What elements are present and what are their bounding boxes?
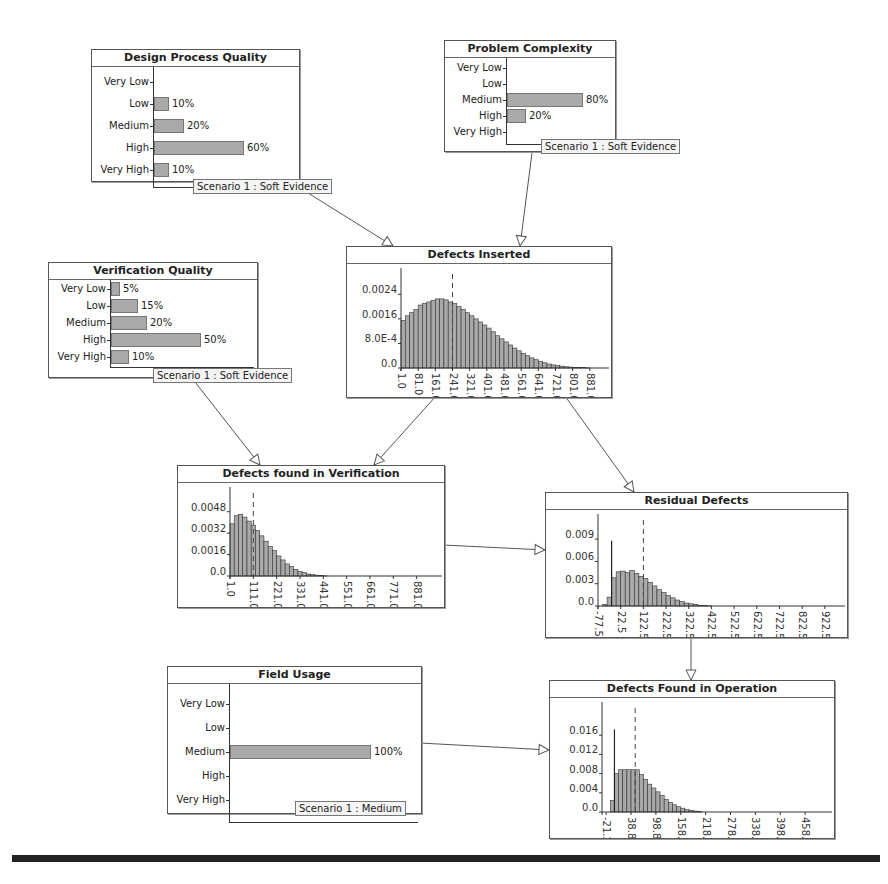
axis-tick — [503, 84, 506, 85]
histogram-bar — [668, 802, 672, 812]
node-title: Defects Found in Operation — [550, 681, 834, 698]
histogram-bar — [440, 299, 444, 368]
histogram-bar — [648, 582, 653, 606]
probability-label: 10% — [132, 350, 154, 364]
category-bar-chart: Very LowLow10%Medium20%High60%Very High1… — [92, 67, 299, 181]
node-defects-found-in-operation[interactable]: Defects Found in Operation0.0160.0120.00… — [549, 680, 835, 839]
node-design-process-quality[interactable]: Design Process QualityVery LowLow10%Medi… — [91, 49, 300, 182]
y-tick-label: 0.003 — [565, 574, 594, 585]
histogram-bar — [255, 530, 259, 576]
edge-inserted-to-found-verif — [374, 396, 436, 465]
histogram-bar — [268, 547, 272, 576]
y-tick-label: 0.008 — [569, 764, 598, 775]
histogram-bar — [538, 361, 542, 368]
x-tick-label: -21.2 — [601, 817, 612, 838]
category-label: High — [479, 110, 502, 122]
histogram-chart: 0.0090.0060.0030.0-77.522.5122.5222.5322… — [546, 510, 847, 637]
histogram-bar — [623, 770, 627, 812]
histogram-bar — [639, 775, 643, 812]
edge-found-verif-to-residual — [443, 545, 545, 550]
node-verification-quality[interactable]: Verification QualityVery Low5%Low15%Medi… — [48, 262, 258, 378]
histogram-bar — [619, 770, 623, 812]
x-tick-label: 522.5 — [729, 611, 740, 637]
histogram-bar — [671, 598, 676, 606]
y-tick-label: 0.0024 — [362, 284, 397, 295]
axis-tick — [150, 104, 153, 105]
axis-tick — [503, 68, 506, 69]
axis-tick — [150, 82, 153, 83]
probability-bar — [507, 109, 526, 123]
probability-label: 20% — [187, 119, 209, 133]
x-tick-label: 551.0 — [342, 581, 353, 607]
probability-label: 20% — [150, 316, 172, 330]
x-tick-label: 822.5 — [797, 611, 808, 637]
edge-inserted-to-residual — [565, 396, 634, 492]
probability-bar — [111, 316, 147, 330]
evidence-label-verification-quality[interactable]: Scenario 1 : Soft Evidence — [153, 368, 292, 383]
histogram-bar — [234, 516, 238, 576]
node-problem-complexity[interactable]: Problem ComplexityVery LowLowMedium80%Hi… — [444, 40, 616, 152]
histogram-bar — [294, 569, 298, 576]
category-label: Medium — [185, 746, 225, 758]
histogram-chart: 0.0160.0120.0080.0040.0-21.238.898.8158.… — [550, 698, 834, 838]
x-tick-label: 922.5 — [820, 611, 831, 637]
edge-complexity-to-inserted — [520, 153, 532, 246]
node-title: Defects Inserted — [347, 247, 611, 264]
x-tick-label: 481.0 — [499, 373, 510, 397]
y-tick-label: 0.0016 — [362, 309, 397, 320]
histogram-bar — [675, 600, 680, 606]
histogram-bar — [652, 586, 657, 606]
histogram-bar — [272, 551, 276, 576]
axis-tick — [107, 340, 110, 341]
y-tick-label: 0.009 — [565, 529, 594, 540]
edge-design-to-inserted — [308, 193, 393, 246]
x-tick-label: 401.0 — [482, 373, 493, 397]
node-title: Field Usage — [168, 667, 421, 684]
evidence-label-field-usage[interactable]: Scenario 1 : Medium — [295, 801, 406, 816]
histogram-bar — [277, 556, 281, 576]
probability-bar — [230, 745, 371, 759]
category-label: Very Low — [457, 62, 502, 74]
node-title: Design Process Quality — [92, 50, 299, 67]
node-residual-defects[interactable]: Residual Defects0.0090.0060.0030.0-77.52… — [545, 492, 848, 638]
x-tick-label: -77.5 — [593, 611, 604, 637]
histogram-bar — [517, 351, 521, 368]
x-tick-label: 241.0 — [448, 373, 459, 397]
histogram-bar — [483, 325, 487, 368]
histogram-bar — [616, 572, 621, 606]
x-tick-label: 22.5 — [616, 611, 627, 633]
histogram-bar — [525, 356, 529, 368]
evidence-label-problem-complexity[interactable]: Scenario 1 : Soft Evidence — [541, 139, 680, 154]
axis-tick — [107, 289, 110, 290]
x-tick-label: 98.8 — [651, 817, 662, 838]
histogram-bar — [672, 805, 676, 812]
x-tick-label: 111.0 — [248, 581, 259, 607]
category-label: Very High — [177, 794, 225, 806]
x-tick-label: 38.8 — [626, 817, 637, 838]
evidence-label-design-process-quality[interactable]: Scenario 1 : Soft Evidence — [193, 179, 332, 194]
node-field-usage[interactable]: Field UsageVery LowLowMedium100%HighVery… — [167, 666, 422, 814]
y-tick-label: 0.0 — [578, 596, 594, 607]
x-tick-label: 1.0 — [225, 581, 236, 597]
probability-label: 100% — [374, 745, 403, 759]
histogram-bar — [625, 573, 630, 606]
histogram-bar — [418, 305, 422, 368]
histogram-bar — [405, 316, 409, 368]
histogram-bar — [444, 300, 448, 368]
histogram-bar — [289, 567, 293, 576]
histogram-bar — [521, 353, 525, 368]
node-defects-inserted[interactable]: Defects Inserted0.00240.00168.0E-40.01.0… — [346, 246, 612, 398]
node-defects-found-in-verification[interactable]: Defects found in Verification0.00480.003… — [177, 465, 445, 608]
histogram-bar — [612, 578, 617, 606]
x-tick-label: 661.0 — [365, 581, 376, 607]
y-tick-label: 8.0E-4 — [365, 333, 397, 344]
axis-tick — [226, 752, 229, 753]
histogram-bar — [680, 602, 685, 606]
axis-tick — [503, 132, 506, 133]
probability-label: 20% — [529, 109, 551, 123]
y-tick-label: 0.004 — [569, 783, 598, 794]
y-tick-label: 0.0048 — [191, 502, 226, 513]
histogram-chart: 0.00240.00168.0E-40.01.081.0161.0241.032… — [347, 264, 611, 397]
probability-bar — [111, 350, 129, 364]
x-tick-label: 881.0 — [585, 373, 596, 397]
